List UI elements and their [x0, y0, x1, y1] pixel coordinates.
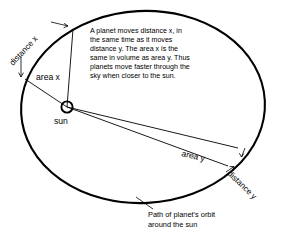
- explanation-line-6: sky when closer to the sun.: [90, 72, 176, 80]
- explanation-line-3: distance y. The area x is the: [90, 45, 178, 53]
- distance-y-label: distance y: [226, 169, 259, 202]
- area-y-label: area y: [181, 148, 207, 163]
- area-x-radius-lower: [25, 79, 67, 107]
- distance-x-arrow-upper: [51, 22, 68, 28]
- explanation-line-1: A planet moves distance x, in: [90, 27, 182, 35]
- area-x-label: area x: [36, 72, 61, 82]
- caption-line-1: Path of planet's orbit: [148, 210, 215, 219]
- explanation-line-2: the same time as it moves: [90, 36, 173, 44]
- sun-label: sun: [54, 116, 68, 126]
- area-x-radius-upper: [67, 29, 73, 107]
- orbit-diagram-canvas: A planet moves distance x, in the same t…: [0, 0, 283, 240]
- explanation-text-block: A planet moves distance x, in the same t…: [90, 27, 190, 80]
- orbit-caption: Path of planet's orbit around the sun: [148, 210, 215, 229]
- diagram-svg: A planet moves distance x, in the same t…: [0, 0, 283, 240]
- area-y-radius-upper: [67, 107, 238, 148]
- caption-line-2: around the sun: [148, 220, 197, 229]
- explanation-line-4: same in volume as area y. Thus: [90, 54, 190, 62]
- distance-x-label: distance x: [8, 34, 40, 67]
- explanation-line-5: planets move faster through the: [90, 63, 190, 71]
- distance-y-arrow-upper: [239, 148, 245, 157]
